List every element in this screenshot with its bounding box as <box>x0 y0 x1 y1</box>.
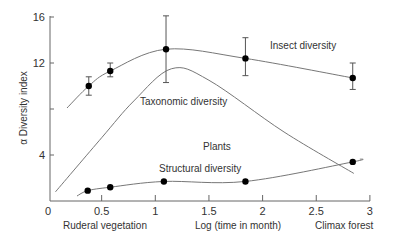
label-taxonomic-diversity: Taxonomic diversity <box>140 96 227 107</box>
data-point <box>161 178 167 184</box>
x-tick-label: 0 <box>45 205 51 217</box>
y-tick-label: 4 <box>39 149 45 161</box>
data-point <box>350 75 356 81</box>
label-climax-forest: Climax forest <box>315 220 374 231</box>
label-ruderal-vegetation: Ruderal vegetation <box>63 220 147 231</box>
data-point <box>242 178 248 184</box>
error-bars <box>86 16 356 95</box>
x-tick-label: 1.5 <box>201 205 216 217</box>
data-point <box>242 55 248 61</box>
x-tick-label: 1 <box>152 205 158 217</box>
y-tick-label: 12 <box>33 57 45 69</box>
data-point <box>85 187 91 193</box>
data-point <box>163 46 169 52</box>
labels: Insect diversity Taxonomic diversity Pla… <box>18 40 374 231</box>
x-tick-label: 2.5 <box>309 205 324 217</box>
data-point <box>107 68 113 74</box>
data-point <box>107 184 113 190</box>
x-tick-label: 2 <box>260 205 266 217</box>
y-tick-label: 16 <box>33 11 45 23</box>
label-structural-diversity: Structural diversity <box>159 163 241 174</box>
diversity-chart: 00.511.522.5341216 Insect diversity Taxo… <box>0 0 393 248</box>
data-point <box>86 83 92 89</box>
y-axis-title: α Diversity index <box>18 71 29 145</box>
x-tick-label: 3 <box>367 205 373 217</box>
x-tick-label: 0.5 <box>94 205 109 217</box>
x-axis-title: Log (time in month) <box>195 220 281 231</box>
label-plants: Plants <box>203 141 231 152</box>
label-insect-diversity: Insect diversity <box>270 40 336 51</box>
data-point <box>350 159 356 165</box>
